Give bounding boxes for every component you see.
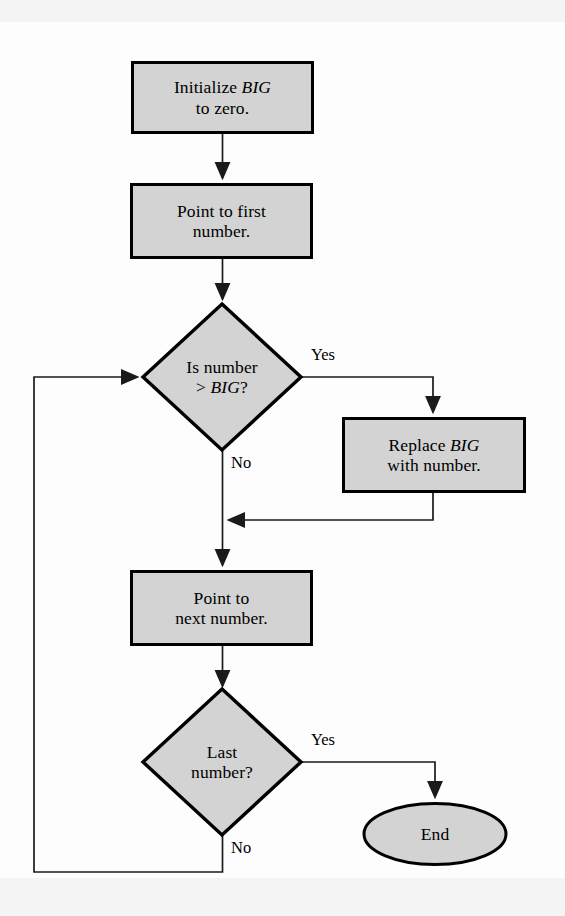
edge-label-no-is-number-greater: No [231, 455, 251, 472]
node-label-end: End [363, 803, 507, 865]
flowchart-figure: Initialize BIGto zero. Point to firstnum… [0, 0, 565, 916]
emphasis-big: BIG [242, 77, 271, 97]
emphasis-big: BIG [450, 435, 479, 455]
node-label-initialize-big: Initialize BIGto zero. [132, 62, 313, 133]
edge-label-yes-last-number: Yes [311, 732, 335, 749]
connector-yes-to-end [301, 762, 435, 797]
connector-replace-to-merge [229, 492, 433, 520]
edge-label-yes-is-number-greater: Yes [311, 347, 335, 364]
edge-label-no-last-number: No [231, 840, 251, 857]
node-label-replace-big: Replace BIGwith number. [343, 418, 525, 492]
node-label-last-number: Lastnumber? [143, 726, 301, 798]
node-label-point-to-first-number: Point to firstnumber. [131, 184, 312, 258]
connector-yes-to-replace [301, 377, 433, 412]
node-label-point-to-next-number: Point tonext number. [131, 571, 312, 645]
node-label-is-number-greater: Is number> BIG? [143, 341, 301, 413]
emphasis-big: BIG [211, 377, 240, 397]
